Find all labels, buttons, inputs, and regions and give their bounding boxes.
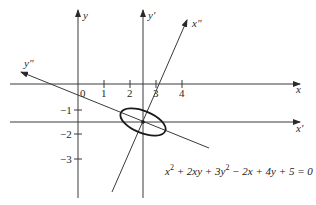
y-double-prime-axis [21, 72, 209, 148]
y-axis-label: y [82, 9, 88, 21]
x-tick-0: 0 [80, 87, 86, 99]
y-double-prime-axis-label: y″ [23, 57, 34, 69]
y-prime-axis-label: y′ [147, 9, 156, 21]
y-tick-neg2: −2 [60, 128, 72, 140]
y-tick-neg3: −3 [60, 153, 72, 165]
y-tick-neg1: −1 [60, 104, 72, 116]
x-tick-3: 3 [153, 87, 159, 99]
rotated-conic-diagram: 0 1 2 3 4 −1 −2 −3 y y′ x″ y″ x x′ x2 + … [0, 0, 316, 205]
x-double-prime-axis-label: x″ [191, 17, 202, 29]
conic-equation: x2 + 2xy + 3y2 − 2x + 4y + 5 = 0 [164, 163, 313, 177]
x-tick-2: 2 [127, 87, 133, 99]
x-prime-axis-label: x′ [295, 122, 304, 134]
x-axis-label: x [295, 83, 301, 95]
x-tick-4: 4 [179, 87, 185, 99]
ellipse-center-point [141, 120, 145, 124]
x-tick-1: 1 [101, 87, 107, 99]
